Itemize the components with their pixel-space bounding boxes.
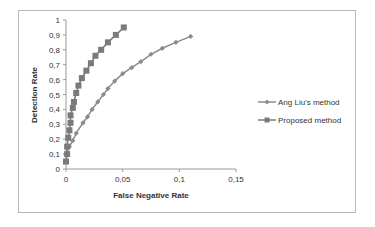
diamond-marker (173, 40, 178, 45)
square-marker (64, 151, 70, 157)
square-marker (98, 47, 104, 53)
y-tick-label: 0,7 (49, 61, 61, 70)
square-marker (121, 24, 127, 30)
axes: 00,10,20,30,40,50,60,70,80,9100,050,10,1… (49, 16, 244, 184)
square-marker (105, 39, 111, 45)
y-tick-label: 0,3 (49, 120, 61, 129)
series-layer (63, 24, 193, 164)
y-tick-label: 0,2 (49, 135, 61, 144)
y-tick-label: 0,9 (49, 31, 61, 40)
square-marker (83, 68, 89, 74)
square-marker (79, 75, 85, 81)
x-tick-label: 0 (64, 175, 69, 184)
square-marker (88, 60, 94, 66)
y-tick-label: 0,5 (49, 91, 61, 100)
chart: 00,10,20,30,40,50,60,70,80,9100,050,10,1… (0, 0, 375, 227)
square-marker (65, 135, 71, 141)
y-axis-title: Detection Rate (30, 66, 39, 123)
y-tick-label: 0,4 (49, 105, 61, 114)
series-line (66, 36, 191, 154)
legend-label: Ang Liu's method (278, 98, 340, 107)
square-marker (92, 53, 98, 59)
x-tick-label: 0,05 (115, 175, 131, 184)
y-tick-label: 0 (56, 165, 61, 174)
legend: Ang Liu's methodProposed method (258, 98, 341, 125)
square-marker (68, 112, 74, 118)
diamond-marker (265, 100, 270, 105)
x-tick-label: 0,15 (228, 175, 244, 184)
legend-item: Proposed method (258, 116, 341, 125)
y-tick-label: 0,1 (49, 150, 61, 159)
square-marker (70, 105, 76, 111)
series-proposed-method (63, 24, 127, 164)
y-tick-label: 0,6 (49, 76, 61, 85)
square-marker (113, 32, 119, 38)
diamond-marker (160, 46, 165, 51)
square-marker (75, 83, 81, 89)
series-ang-liu-method (63, 34, 193, 157)
y-tick-label: 0,8 (49, 46, 61, 55)
square-marker (73, 90, 79, 96)
y-tick-label: 1 (56, 16, 61, 25)
square-marker (64, 144, 70, 150)
x-tick-label: 0,1 (174, 175, 186, 184)
square-marker (68, 120, 74, 126)
diamond-marker (188, 34, 193, 39)
legend-label: Proposed method (278, 116, 341, 125)
square-marker (71, 99, 77, 105)
legend-item: Ang Liu's method (258, 98, 340, 107)
square-marker (66, 127, 72, 133)
square-marker (265, 118, 270, 123)
square-marker (63, 159, 69, 165)
x-axis-title: False Negative Rate (113, 191, 189, 200)
